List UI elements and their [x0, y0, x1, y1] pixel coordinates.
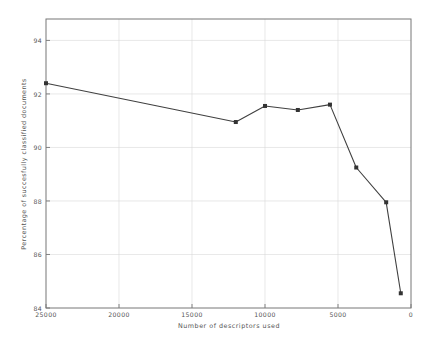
y-tick-label: 86 [30, 251, 42, 258]
x-tick-label: 15000 [181, 311, 202, 318]
data-point-marker [399, 291, 403, 295]
y-axis-title: Percentage of succesfully classified doc… [20, 54, 28, 274]
x-axis-title: Number of descriptors used [178, 322, 280, 330]
plot-frame [46, 19, 411, 308]
chart-figure: 2500020000150001000050000 848688909294 N… [0, 0, 438, 349]
y-tick-label: 92 [30, 90, 42, 97]
data-point-marker [328, 103, 332, 107]
data-point-marker [234, 120, 238, 124]
x-tick-label: 5000 [329, 311, 346, 318]
data-markers [44, 81, 403, 295]
data-point-marker [296, 108, 300, 112]
data-point-marker [384, 200, 388, 204]
x-tick-label: 0 [409, 311, 413, 318]
y-tick-label: 94 [30, 37, 42, 44]
x-tick-label: 20000 [108, 311, 129, 318]
y-tick-label: 90 [30, 144, 42, 151]
data-point-marker [354, 166, 358, 170]
line-chart-canvas [0, 0, 438, 349]
gridlines [46, 19, 411, 308]
data-line [46, 83, 401, 293]
y-tick-label: 84 [30, 305, 42, 312]
data-point-marker [44, 81, 48, 85]
y-tick-label: 88 [30, 197, 42, 204]
x-tick-label: 25000 [35, 311, 56, 318]
x-tick-label: 10000 [254, 311, 275, 318]
data-point-marker [263, 104, 267, 108]
axis-ticks [46, 40, 411, 308]
